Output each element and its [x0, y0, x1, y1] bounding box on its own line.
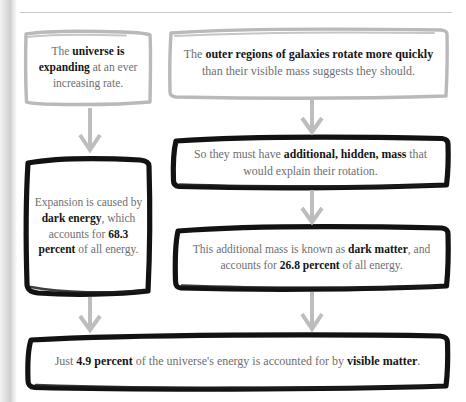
- box-outer-regions-rotate: The outer regions of galaxies rotate mor…: [166, 26, 451, 100]
- arrow-dark-energy-to-visible-matter: [78, 297, 102, 335]
- arrow-hidden-mass-to-dark-matter: [300, 190, 324, 226]
- box-text-hidden-mass: So they must have additional, hidden, ma…: [170, 146, 451, 179]
- box-text-dark-energy: Expansion is caused by dark energy, whic…: [22, 195, 155, 258]
- box-dark-matter: This additional mass is known as dark ma…: [172, 224, 451, 292]
- page-gutter-shadow: [0, 0, 15, 402]
- box-universe-expanding: The universe is expanding at an ever inc…: [22, 28, 154, 108]
- arrow-dark-matter-to-visible-matter: [300, 292, 324, 334]
- box-text-outer-regions: The outer regions of galaxies rotate mor…: [166, 46, 451, 79]
- arrow-outer-regions-to-hidden-mass: [300, 100, 324, 136]
- page-gutter-edge: [14, 0, 17, 402]
- box-additional-hidden-mass: So they must have additional, hidden, ma…: [170, 135, 451, 190]
- top-horizontal-rule: [20, 12, 452, 13]
- box-text-visible-matter: Just 4.9 percent of the universe's energ…: [47, 353, 429, 370]
- box-dark-energy: Expansion is caused by dark energy, whic…: [22, 155, 155, 298]
- arrow-expanding-to-dark-energy: [78, 108, 102, 154]
- box-text-universe-expanding: The universe is expanding at an ever inc…: [22, 44, 154, 92]
- flowchart-page: The universe is expanding at an ever inc…: [0, 0, 466, 402]
- box-text-dark-matter: This additional mass is known as dark ma…: [172, 242, 451, 274]
- box-visible-matter: Just 4.9 percent of the universe's energ…: [24, 332, 451, 391]
